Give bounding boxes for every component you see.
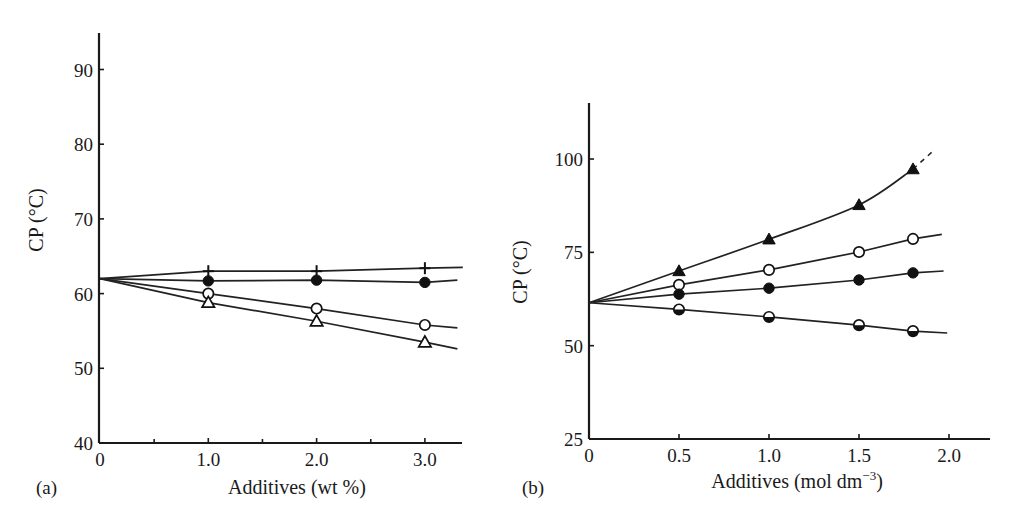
half-filled-circle-marker [674,304,684,314]
series-line [100,279,457,349]
x-tick-label: 1.0 [757,445,781,466]
filled-circle-marker [674,289,684,299]
series-dashed-extension [913,150,935,169]
x-tick-label: 2.0 [305,449,329,470]
series-half-filled-circle [589,303,947,337]
x-tick-label: 0 [584,445,594,466]
y-axis-title: CP (°C) [509,240,532,303]
series-open-circle [100,279,457,331]
x-tick-label: 2.0 [937,445,961,466]
x-tick-label: 0.5 [667,445,691,466]
open-circle-marker [764,265,774,275]
y-tick-label: 25 [564,429,583,450]
y-tick-label: 80 [74,134,93,155]
y-tick-label: 70 [74,209,93,230]
panel-label: (b) [522,477,544,499]
open-circle-marker [311,303,321,313]
y-tick-label: 75 [564,242,583,263]
y-tick-label: 100 [555,149,584,170]
x-axis-title: Additives (mol dm−3) [711,468,883,493]
series-line [100,267,463,278]
filled-triangle-marker [853,199,865,210]
figure: 40506070809001.02.03.0CP (°C)Additives (… [0,0,1031,531]
x-tick-label: 1.0 [196,449,220,470]
y-axis-title: CP (°C) [25,188,48,251]
filled-circle-marker [420,277,430,287]
series-line [100,279,457,283]
half-filled-circle-marker [908,326,918,336]
filled-circle-marker [764,283,774,293]
open-circle-marker [420,320,430,330]
series-filled-triangle [589,150,935,303]
series-plus [100,262,463,278]
y-tick-label: 60 [74,284,93,305]
y-tick-label: 40 [74,433,93,454]
filled-circle-marker [311,275,321,285]
x-axis-title: Additives (wt %) [228,476,366,499]
panel-label: (a) [36,477,57,499]
filled-circle-marker [854,275,864,285]
chart-panel-b: 25507510000.51.01.52.0CP (°C)Additives (… [509,103,990,499]
half-filled-circle-marker [764,312,774,322]
series-open-triangle [100,279,457,349]
filled-circle-marker [203,276,213,286]
x-tick-label: 3.0 [413,449,437,470]
x-tick-label: 0 [95,449,105,470]
y-tick-label: 50 [74,358,93,379]
open-circle-marker [854,247,864,257]
series-line [100,279,457,328]
chart-panel-a: 40506070809001.02.03.0CP (°C)Additives (… [25,33,463,499]
filled-triangle-marker [907,163,919,174]
y-tick-label: 90 [74,60,93,81]
series-line [589,169,913,303]
filled-circle-marker [908,268,918,278]
open-circle-marker [908,234,918,244]
x-tick-label: 1.5 [847,445,871,466]
half-filled-circle-marker [854,320,864,330]
plus-marker [419,262,430,274]
y-tick-label: 50 [564,336,583,357]
